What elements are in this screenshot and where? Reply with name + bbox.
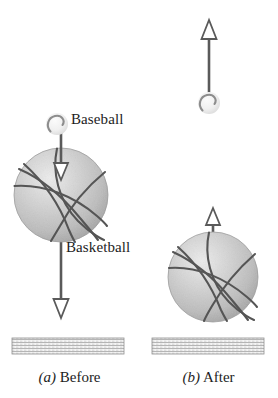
physics-diagram: Baseball Basketball (a) Before (b) After <box>0 0 278 398</box>
basketball-label: Basketball <box>66 239 130 256</box>
caption-after-enumerator: (b) <box>182 369 200 385</box>
baseball-label: Baseball <box>71 111 123 128</box>
caption-before-enumerator: (a) <box>38 369 56 385</box>
panel-after <box>139 0 278 398</box>
caption-after: (b) After <box>139 369 278 386</box>
caption-before-text: Before <box>60 369 101 385</box>
caption-after-text: After <box>203 369 235 385</box>
caption-before: (a) Before <box>0 369 139 386</box>
panel-before: Baseball Basketball <box>0 0 139 398</box>
